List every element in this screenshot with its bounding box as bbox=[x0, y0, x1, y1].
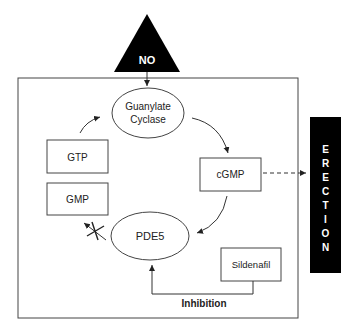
cgmp-label: cGMP bbox=[217, 169, 245, 180]
cgmp-to-pde5-arrow bbox=[197, 196, 227, 233]
gmp-node: GMP bbox=[47, 183, 108, 215]
block-cross-icon-b bbox=[92, 222, 98, 240]
guanylate-label-line2: Cyclase bbox=[130, 114, 166, 125]
inhibition-label: Inhibition bbox=[182, 298, 227, 309]
guanylate-cyclase-ellipse bbox=[112, 88, 184, 138]
gtp-label: GTP bbox=[67, 152, 88, 163]
erection-letter-2: R bbox=[322, 158, 330, 169]
gmp-label: GMP bbox=[66, 194, 89, 205]
blocked-pde5-to-gmp-arrow bbox=[84, 222, 106, 240]
cgmp-node: cGMP bbox=[200, 158, 261, 191]
erection-letter-8: N bbox=[322, 242, 329, 253]
no-trigger: NO bbox=[114, 14, 180, 72]
cyclase-to-cgmp-arrow bbox=[192, 118, 228, 153]
guanylate-cyclase-node: Guanylate Cyclase bbox=[112, 88, 184, 138]
pde5-label: PDE5 bbox=[136, 230, 165, 242]
gtp-node: GTP bbox=[47, 140, 108, 173]
gtp-to-cyclase-arrow bbox=[80, 117, 100, 133]
pde5-node: PDE5 bbox=[111, 212, 189, 260]
no-label: NO bbox=[139, 54, 156, 66]
guanylate-label-line1: Guanylate bbox=[125, 101, 171, 112]
erection-letter-4: C bbox=[322, 186, 329, 197]
erection-letter-5: T bbox=[322, 200, 328, 211]
erection-letter-1: E bbox=[322, 144, 329, 155]
erection-letter-7: O bbox=[322, 228, 330, 239]
sildenafil-label: Sildenafil bbox=[232, 259, 271, 270]
sildenafil-node: Sildenafil bbox=[221, 248, 281, 281]
erection-outcome: E R E C T I O N bbox=[310, 117, 341, 273]
erection-letter-6: I bbox=[324, 214, 327, 225]
pde5-pathway-diagram: NO Guanylate Cyclase GTP GMP cGMP PDE5 S… bbox=[0, 0, 357, 334]
erection-letter-3: E bbox=[322, 172, 329, 183]
